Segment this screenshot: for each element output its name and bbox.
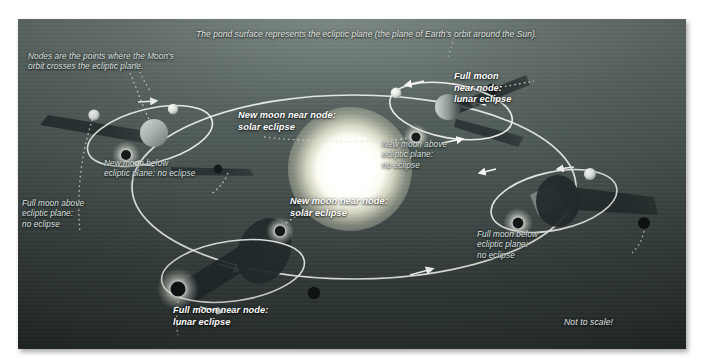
caption-nodes-definition: Nodes are the points where the Moon's or… <box>28 52 174 73</box>
node-guide-dotted <box>210 173 228 195</box>
earth-body-dark <box>536 175 580 227</box>
node-guide-dotted <box>130 73 152 125</box>
label-full-moon-near-node-lunar-eclipse-bottom: Full moon near node: lunar eclipse <box>173 305 268 328</box>
moon-near-node <box>168 104 178 114</box>
label-new-moon-near-node-solar-eclipse-bottom: New moon near node: solar eclipse <box>290 196 388 219</box>
top-caption-leader-line <box>448 37 454 57</box>
moon-new-below-plane <box>214 165 223 174</box>
moon-lit <box>391 88 402 99</box>
label-new-moon-near-node-solar-eclipse-top: New moon near node: solar eclipse <box>238 110 336 133</box>
earth-body <box>140 119 168 147</box>
label-not-to-scale: Not to scale! <box>564 317 613 328</box>
label-full-moon-above-ecliptic-no-eclipse: Full moon above ecliptic plane: no eclip… <box>22 199 84 230</box>
label-new-moon-above-ecliptic-no-eclipse: New moon above ecliptic plane: no eclips… <box>382 140 447 171</box>
label-full-moon-below-ecliptic-no-eclipse: Full moon below ecliptic plane: no eclip… <box>477 230 538 261</box>
illustration-panel: The pond surface represents the ecliptic… <box>18 19 686 349</box>
label-new-moon-below-ecliptic-no-eclipse: New moon below ecliptic plane: no eclips… <box>104 159 195 180</box>
moon-full-below-plane <box>638 217 650 229</box>
moon-new-silhouette <box>275 226 285 236</box>
label-full-moon-near-node-lunar-eclipse-top: Full moon near node: lunar eclipse <box>454 71 511 106</box>
moon-orbit-arrow <box>138 101 156 102</box>
moon-new-silhouette <box>513 218 524 229</box>
figure-root: The pond surface represents the ecliptic… <box>0 0 705 363</box>
node-guide-dotted <box>632 231 644 253</box>
moon-lit <box>584 168 596 180</box>
node-guide-dotted <box>264 137 364 142</box>
moon-dark <box>308 287 320 299</box>
caption-ecliptic-plane: The pond surface represents the ecliptic… <box>196 29 537 40</box>
moon-orbit-arrow <box>480 169 496 173</box>
moon-full-eclipsed <box>171 282 186 297</box>
